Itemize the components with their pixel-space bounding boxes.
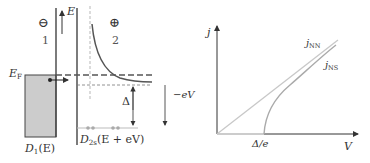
diagram-canvas [0, 0, 370, 163]
filled-states-metal-1 [25, 75, 56, 137]
jns-label: jNS [325, 60, 338, 72]
bcs-dos-curve [92, 24, 152, 82]
gap-label: Δ [122, 96, 130, 107]
sign-negative: ⊖ [38, 16, 49, 29]
jnn-line [217, 40, 338, 134]
energy-axis-label: E [67, 6, 75, 17]
region-2-label: 2 [112, 35, 119, 46]
region-1-label: 1 [42, 35, 49, 46]
fermi-level-label: EF [9, 68, 22, 80]
iv-chart [217, 26, 358, 134]
voltage-label: −eV [173, 90, 195, 100]
x-axis-label: V [344, 141, 352, 152]
sign-positive: ⊕ [109, 16, 120, 29]
jnn-label: jNN [306, 38, 320, 50]
y-axis-label: j [207, 27, 210, 38]
dos-right-label: D2s(E + eV) [80, 134, 144, 146]
x-tick-gap: Δ/e [252, 139, 269, 149]
dos-left-label: D1(E) [25, 143, 55, 155]
